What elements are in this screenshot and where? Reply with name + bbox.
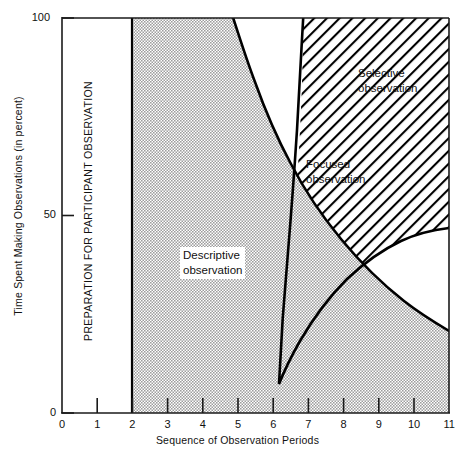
- y-tick-label-0: 0: [26, 406, 56, 418]
- focused-observation-label-line1: Focused: [306, 157, 365, 172]
- preparation-region-label: PREPARATION FOR PARTICIPANT OBSERVATION: [82, 41, 94, 381]
- x-tick-label-3: 3: [156, 418, 180, 430]
- descriptive-observation-label-line2: observation: [183, 263, 242, 278]
- x-tick-label-9: 9: [367, 418, 391, 430]
- x-tick-label-8: 8: [332, 418, 356, 430]
- x-tick-label-0: 0: [50, 418, 74, 430]
- x-tick-label-5: 5: [226, 418, 250, 430]
- x-tick-label-6: 6: [261, 418, 285, 430]
- focused-observation-label: Focused observation: [306, 157, 365, 187]
- y-tick-label-100: 100: [20, 11, 50, 23]
- focused-observation-label-line2: observation: [306, 172, 365, 187]
- x-tick-label-4: 4: [191, 418, 215, 430]
- observation-phases-chart: Time Spent Making Observations (in perce…: [0, 0, 475, 464]
- x-tick-label-10: 10: [402, 418, 426, 430]
- descriptive-observation-label-line1: Descriptive: [183, 248, 242, 263]
- selective-observation-label-line2: observation: [358, 81, 417, 96]
- x-tick-label-2: 2: [120, 418, 144, 430]
- x-axis-title: Sequence of Observation Periods: [0, 434, 475, 446]
- selective-observation-label: Selective observation: [358, 66, 417, 96]
- descriptive-observation-label: Descriptive observation: [180, 247, 245, 279]
- y-axis-ticks: [62, 18, 74, 413]
- selective-observation-label-line1: Selective: [358, 66, 417, 81]
- x-tick-label-1: 1: [85, 418, 109, 430]
- x-tick-label-7: 7: [296, 418, 320, 430]
- y-axis-title: Time Spent Making Observations (in perce…: [12, 36, 24, 376]
- y-tick-label-50: 50: [26, 208, 56, 220]
- x-tick-label-11: 11: [437, 418, 461, 430]
